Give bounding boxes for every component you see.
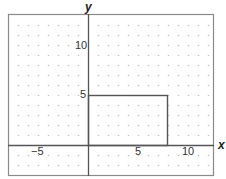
y-axis-label: y [84, 0, 93, 14]
rectangle-shape [89, 96, 168, 146]
x-tick-10: 10 [182, 145, 194, 157]
y-tick-10: 10 [75, 39, 87, 51]
x-axis-label: x [217, 138, 226, 152]
y-tick-5: 5 [80, 88, 86, 100]
x-tick-5: 5 [135, 145, 141, 157]
x-tick-neg5: −5 [31, 145, 44, 157]
coordinate-plane: y x 10 5 −5 5 10 [0, 0, 226, 179]
